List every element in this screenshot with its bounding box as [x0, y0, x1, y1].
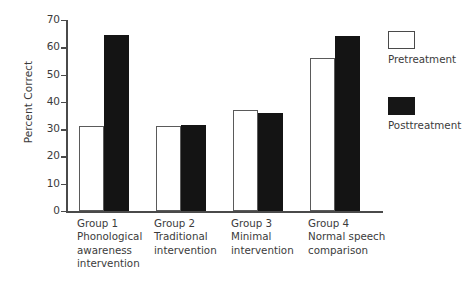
bar-pre-group-4 — [310, 58, 335, 211]
legend-item-posttreatment: Posttreatment — [388, 97, 461, 132]
y-tick-label: 70 — [47, 12, 60, 26]
group-label-3: Group 3 Minimal intervention — [231, 217, 294, 257]
bar-post-group-1 — [104, 35, 129, 211]
y-tick-label: 20 — [47, 148, 60, 162]
bar-pre-group-2 — [156, 126, 181, 211]
bar-post-group-2 — [181, 125, 206, 211]
tick-mark-icon — [61, 20, 67, 21]
bar-post-group-4 — [335, 36, 360, 211]
y-tick-label: 30 — [47, 121, 60, 135]
bar-pre-group-3 — [233, 110, 258, 211]
tick-mark-icon — [61, 156, 67, 157]
y-tick-label: 40 — [47, 94, 60, 108]
y-tick-label: 0 — [53, 203, 60, 217]
x-axis-line — [66, 211, 383, 213]
legend-label-pretreatment: Pretreatment — [388, 52, 456, 66]
legend-item-pretreatment: Pretreatment — [388, 31, 456, 66]
bar-chart: Percent Correct 010203040506070 Group 1 … — [0, 0, 474, 290]
group-label-4: Group 4 Normal speech comparison — [308, 217, 385, 257]
bar-pre-group-1 — [79, 126, 104, 211]
tick-mark-icon — [61, 75, 67, 76]
tick-mark-icon — [61, 129, 67, 130]
y-tick-label: 60 — [47, 39, 60, 53]
bar-post-group-3 — [258, 113, 283, 211]
tick-mark-icon — [61, 184, 67, 185]
black-square-icon — [388, 97, 415, 115]
white-square-icon — [388, 31, 415, 49]
tick-mark-icon — [61, 47, 67, 48]
y-tick-label: 10 — [47, 176, 60, 190]
group-label-1: Group 1 Phonological awareness intervent… — [77, 217, 142, 271]
group-label-2: Group 2 Traditional intervention — [154, 217, 217, 257]
legend-label-posttreatment: Posttreatment — [388, 118, 461, 132]
tick-mark-icon — [61, 102, 67, 103]
tick-mark-icon — [61, 211, 67, 212]
y-axis-title: Percent Correct — [22, 42, 34, 162]
y-tick-label: 50 — [47, 67, 60, 81]
plot-area: 010203040506070 — [66, 20, 383, 211]
